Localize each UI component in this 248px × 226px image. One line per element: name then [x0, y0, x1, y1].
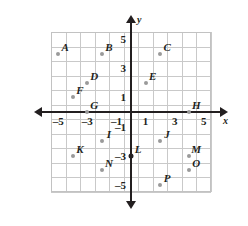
point-label-j: J	[164, 129, 170, 140]
plotted-point-b	[100, 52, 104, 56]
point-label-d: D	[90, 70, 98, 81]
plotted-point-i	[100, 139, 104, 143]
coordinate-plane: xy –5–3–1135531–1–3–5 ABCDEFGHIJKLMNOP	[0, 0, 248, 226]
plotted-point-c	[158, 52, 162, 56]
point-label-m: M	[191, 143, 201, 154]
plotted-point-e	[144, 81, 148, 85]
y-tick-label: –3	[114, 150, 126, 161]
plotted-point-d	[85, 81, 89, 85]
point-label-f: F	[76, 85, 83, 96]
plotted-point-o	[187, 168, 191, 172]
plotted-point-a	[56, 52, 60, 56]
point-label-b: B	[105, 41, 112, 52]
y-axis-label: y	[137, 15, 141, 25]
plotted-point-f	[71, 95, 75, 99]
x-axis-label: x	[223, 116, 228, 126]
y-tick-label: 1	[114, 92, 126, 103]
plotted-point-j	[158, 139, 162, 143]
point-label-a: A	[62, 41, 69, 52]
x-tick-label: 5	[201, 116, 207, 127]
y-axis-arrow-up	[126, 15, 136, 23]
point-label-k: K	[76, 143, 83, 154]
plotted-point-g	[85, 110, 89, 114]
point-label-o: O	[192, 158, 200, 169]
plotted-point-h	[187, 110, 191, 114]
point-label-n: N	[105, 158, 113, 169]
x-tick-label: –3	[82, 116, 93, 127]
plotted-point-p	[158, 183, 162, 187]
plotted-point-k	[71, 154, 75, 158]
plotted-point-l	[129, 153, 134, 158]
y-tick-label: 3	[114, 63, 126, 74]
y-axis-line	[130, 23, 132, 201]
point-label-l: L	[135, 143, 142, 154]
point-label-p: P	[164, 172, 171, 183]
y-tick-label: –1	[114, 121, 126, 132]
x-tick-label: 1	[143, 116, 149, 127]
x-axis-arrow-left	[34, 107, 42, 117]
y-tick-label: 5	[114, 34, 126, 45]
plotted-point-n	[100, 168, 104, 172]
x-tick-label: –5	[53, 116, 64, 127]
point-label-i: I	[107, 129, 111, 140]
point-label-e: E	[149, 70, 156, 81]
plotted-point-m	[187, 154, 191, 158]
y-tick-label: –5	[114, 179, 126, 190]
x-tick-label: 3	[172, 116, 178, 127]
point-label-c: C	[163, 41, 170, 52]
y-axis-arrow-down	[126, 201, 136, 209]
point-label-h: H	[192, 100, 201, 111]
point-label-g: G	[90, 100, 98, 111]
